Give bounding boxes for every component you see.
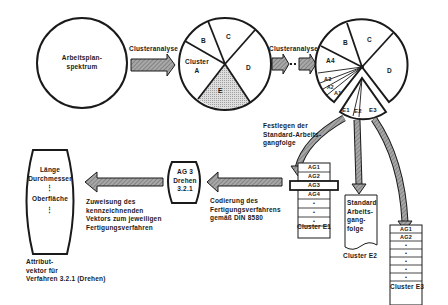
wedge-e2: E2: [354, 107, 362, 116]
circle2-segment-d: D: [387, 67, 392, 76]
start-circle-label: Arbeitsplan- spektrum: [60, 54, 104, 71]
arrow1-label: Clusteranalyse: [129, 45, 178, 54]
cluster-e3-rows: AG1 AG2 • • • • •: [390, 225, 422, 281]
ag-box-line1: AG 3: [170, 168, 200, 177]
vector-item-surface: Oberfläche: [26, 195, 74, 204]
e3-row: •: [390, 241, 422, 249]
e3-row: •: [390, 265, 422, 273]
vector-dots: ⋮: [26, 183, 74, 192]
assign-label-line3: Vektors zum jeweiligen: [86, 215, 162, 224]
cluster-e1-rows: AG1 AG2 AG3 AG4 • • •: [298, 163, 330, 226]
wedge-e1: E1: [342, 106, 350, 115]
assignment-label: Zuweisung des kennzeichnenden Vektors zu…: [86, 198, 162, 232]
arrow-clusteranalyse-1: [131, 54, 175, 76]
cluster-e2-text: Standard Arbeits- gang- folge: [347, 199, 377, 233]
arrow-codierung: [207, 172, 282, 192]
e1-row-highlighted: AG3: [298, 181, 330, 190]
standard-label-line3: gangfolge: [263, 139, 321, 148]
coding-label: Codierung des Fertigungsverfahrens gemäß…: [210, 197, 281, 223]
ag-box-text: AG 3 Drehen 3.2.1: [170, 168, 200, 194]
standard-label-line2: Standard-Arbeits-: [263, 131, 321, 140]
standard-sequence-label: Festlegen der Standard-Arbeits- gangfolg…: [263, 122, 321, 148]
circle2-segment-a2: A2: [327, 83, 334, 92]
arrow-zuweisung: [85, 172, 163, 192]
cluster-e2-caption: Cluster E2: [343, 252, 377, 261]
start-circle-label-line2: spektrum: [60, 63, 104, 72]
e1-row: AG2: [298, 172, 330, 181]
circle2-segment-b: B: [343, 39, 348, 48]
e2-line: Standard: [347, 199, 377, 208]
circle1-cluster-label: Cluster: [182, 58, 212, 67]
circle1-segment-c: C: [226, 33, 231, 42]
wedge-e3: E3: [369, 106, 377, 115]
coding-label-line3: gemäß DIN 8580: [210, 214, 281, 223]
cluster-e3-caption: Cluster E3: [390, 283, 424, 292]
e1-row: AG4: [298, 190, 330, 199]
vector-caption-line1: Attribut-: [26, 258, 106, 267]
e3-row: •: [390, 273, 422, 281]
vector-content: Länge Durchmesser ⋮ Oberfläche ⋮: [26, 166, 74, 216]
coding-label-line1: Codierung des: [210, 197, 281, 206]
circle1-segment-a: Cluster A: [182, 58, 212, 75]
arrow2-label: Clusteranalyse: [269, 45, 318, 54]
standard-label-line1: Festlegen der: [263, 122, 321, 131]
start-circle-label-line1: Arbeitsplan-: [60, 54, 104, 63]
e3-row: AG2: [390, 233, 422, 241]
e1-row: •: [298, 208, 330, 217]
cluster-e1-caption: Cluster E1: [297, 223, 331, 232]
assign-label-line2: kennzeichnenden: [86, 207, 162, 216]
ag-box-line2: Drehen: [170, 177, 200, 186]
arrow-clusteranalyse-2: [272, 54, 316, 74]
e3-row: AG1: [390, 225, 422, 233]
e2-line: gang-: [347, 216, 377, 225]
vector-caption-line3: Verfahren 3.2.1 (Drehen): [26, 275, 106, 284]
vector-item-length: Länge: [26, 166, 74, 175]
assign-label-line4: Fertigungsverfahren: [86, 224, 162, 233]
e2-line: Arbeits-: [347, 208, 377, 217]
e3-row: •: [390, 249, 422, 257]
vector-dots: ⋮: [26, 204, 74, 216]
e2-line: folge: [347, 225, 377, 234]
ag-box-line3: 3.2.1: [170, 185, 200, 194]
circle1-segment-d: D: [246, 64, 251, 73]
vector-item-diameter: Durchmesser: [26, 175, 74, 184]
e1-row: AG1: [298, 163, 330, 172]
circle2-segment-c: C: [367, 36, 372, 45]
circle1-cluster-letter: A: [182, 67, 212, 76]
vector-caption-line2: vektor für: [26, 267, 106, 276]
e1-row: •: [298, 199, 330, 208]
circle1-segment-b: B: [201, 37, 206, 46]
circle2-segment-a1: A1: [334, 89, 341, 98]
assign-label-line1: Zuweisung des: [86, 198, 162, 207]
e3-row: •: [390, 257, 422, 265]
vector-caption: Attribut- vektor für Verfahren 3.2.1 (Dr…: [26, 258, 106, 284]
coding-label-line2: Fertigungsverfahrens: [210, 206, 281, 215]
circle1-segment-e: E: [218, 87, 223, 96]
circle2-segment-a4: A4: [326, 57, 335, 66]
